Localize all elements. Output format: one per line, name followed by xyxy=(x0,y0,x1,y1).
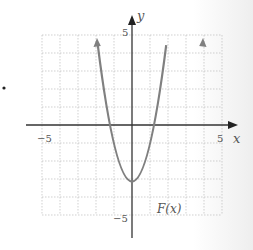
y-min-tick-label: −5 xyxy=(113,213,128,224)
curve-label: F(x) xyxy=(156,202,182,216)
x-axis-label: x xyxy=(233,131,241,146)
x-max-tick-label: 5 xyxy=(217,133,223,144)
x-min-tick-label: −5 xyxy=(37,133,52,144)
y-axis-label: y xyxy=(136,8,145,23)
y-max-tick-label: 5 xyxy=(122,27,128,38)
graph-labels: y x −5 5 5 −5 F(x) xyxy=(0,0,253,250)
